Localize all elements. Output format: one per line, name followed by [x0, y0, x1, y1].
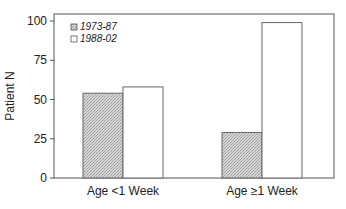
category-label-1-week-plus: Age ≥1 Week	[226, 184, 299, 198]
bar-chart: 0255075100 Patient N Age <1 Week Age ≥1 …	[0, 0, 346, 209]
bar-1973-87-1-week-plus	[222, 132, 262, 178]
legend-label-1988-02: 1988-02	[80, 33, 117, 44]
bars	[83, 23, 302, 178]
bar-1988-02-1-week-plus	[262, 23, 302, 178]
y-tick-label: 0	[40, 171, 47, 185]
y-axis: 0255075100	[27, 14, 54, 185]
legend: 1973-87 1988-02	[71, 21, 117, 44]
bar-1988-02-under-1-week	[123, 87, 163, 178]
category-label-under-1-week: Age <1 Week	[87, 184, 160, 198]
y-tick-label: 50	[34, 93, 48, 107]
y-tick-label: 75	[34, 53, 48, 67]
legend-swatch-1973-87	[71, 24, 77, 30]
legend-swatch-1988-02	[71, 36, 77, 42]
y-tick-label: 100	[27, 14, 47, 28]
y-tick-label: 25	[34, 132, 48, 146]
y-axis-title: Patient N	[3, 71, 17, 120]
legend-label-1973-87: 1973-87	[80, 21, 117, 32]
bar-1973-87-under-1-week	[83, 93, 123, 178]
